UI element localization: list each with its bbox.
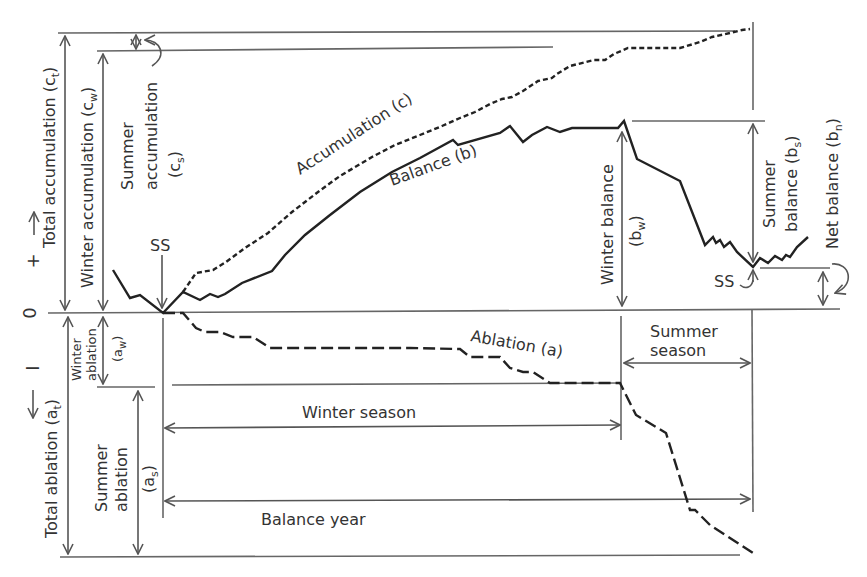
ss-end-label: SS xyxy=(714,272,734,291)
balance-year-arrow xyxy=(165,499,750,501)
balance-curve-label: Balance (b) xyxy=(387,141,480,190)
axis-zero-label: 0 xyxy=(19,307,40,318)
winter-season-arrow xyxy=(165,425,620,428)
summer-season-label-1: Summer xyxy=(650,322,718,341)
summer-ablation-label-3: (as) xyxy=(139,465,161,493)
summer-ablation-label-1: Summer xyxy=(92,444,111,512)
winter-balance-symbol: (bw) xyxy=(626,215,648,247)
ss-start-label: SS xyxy=(150,236,170,255)
winter-ablation-label-3: (aw) xyxy=(110,336,128,362)
total-accumulation-line xyxy=(58,31,735,33)
summer-balance-label-1: Summer xyxy=(760,160,779,228)
winter-ablation-label-1: Winter xyxy=(69,337,84,381)
axis-plus-label: + xyxy=(22,253,43,268)
net-balance-label: Net balance (bn) xyxy=(823,118,845,249)
mass-balance-diagram: 0 + I Total accumulation (ct) Winter acc… xyxy=(0,0,867,577)
winter-accumulation-line xyxy=(97,47,553,51)
summer-accumulation-pointer xyxy=(145,40,161,66)
winter-season-label: Winter season xyxy=(302,403,416,422)
ablation-curve-label: Ablation (a) xyxy=(469,326,564,361)
accumulation-curve-label: Accumulation (c) xyxy=(292,89,416,179)
winter-ablation-label-2: ablation xyxy=(84,328,99,381)
year-end-vertical-lower xyxy=(752,310,753,512)
balance-year-label: Balance year xyxy=(261,510,366,529)
summer-balance-label-2: balance (bs) xyxy=(782,136,804,232)
winter-balance-label: Winter balance xyxy=(598,164,617,285)
vertical-lines xyxy=(163,22,753,518)
total-accumulation-label: Total accumulation (ct) xyxy=(40,67,62,249)
total-ablation-label: Total ablation (at) xyxy=(42,399,64,539)
axis-minus-label: I xyxy=(22,365,43,370)
summer-accumulation-label-1: Summer xyxy=(118,122,137,190)
summer-ablation-label-2: ablation xyxy=(112,447,131,512)
reference-lines xyxy=(48,31,840,557)
net-balance-pointer xyxy=(832,264,848,293)
total-ablation-line xyxy=(60,555,740,557)
summer-accumulation-label-2: accumulation xyxy=(142,82,161,190)
winter-accumulation-label: Winter accumulation (cw) xyxy=(78,87,100,288)
ss-end-pointer xyxy=(740,280,753,287)
summer-season-label-2: season xyxy=(650,341,706,360)
summer-accumulation-label-3: (cs) xyxy=(165,151,187,178)
